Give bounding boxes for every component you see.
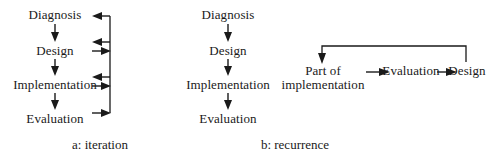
node-diagnosis-b: Diagnosis bbox=[202, 8, 255, 22]
figure-iteration-and-recurrence: Diagnosis Design Implementation Evaluati… bbox=[0, 0, 490, 166]
node-part-of-implementation-line2: implementation bbox=[282, 77, 365, 92]
panel-b-down-arrow-implementation-to-evaluation bbox=[224, 93, 232, 110]
panel-a-feedback-arrow-to-diagnosis bbox=[92, 12, 110, 20]
caption-panel-a: a: iteration bbox=[72, 137, 128, 152]
node-evaluation-recurrence: Evaluation bbox=[382, 64, 439, 78]
node-evaluation-b: Evaluation bbox=[199, 112, 256, 126]
panel-a-feedback-arrow-from-evaluation bbox=[92, 109, 111, 117]
node-implementation-a: Implementation bbox=[13, 78, 97, 92]
node-part-of-implementation-line1: Part of bbox=[305, 63, 341, 78]
node-design-b: Design bbox=[209, 44, 246, 58]
node-implementation-b: Implementation bbox=[186, 78, 270, 92]
node-design-recurrence: Design bbox=[448, 64, 485, 78]
panel-b-down-arrow-diagnosis-to-design bbox=[224, 24, 232, 42]
panel-b-recurrence-loop bbox=[318, 46, 466, 64]
node-part-of-implementation: Part of implementation bbox=[280, 64, 366, 92]
panel-b-down-arrow-design-to-implementation bbox=[224, 59, 232, 76]
panel-a-feedback-arrow-to-design bbox=[92, 38, 110, 46]
panel-a-down-arrow-implementation-to-evaluation bbox=[51, 93, 59, 110]
caption-panel-b: b: recurrence bbox=[261, 137, 329, 152]
node-diagnosis-a: Diagnosis bbox=[29, 8, 82, 22]
panel-a-down-arrow-diagnosis-to-design bbox=[51, 24, 59, 42]
panel-a-feedback-arrow-from-design bbox=[92, 47, 111, 55]
panel-a-down-arrow-design-to-implementation bbox=[51, 59, 59, 76]
node-evaluation-a: Evaluation bbox=[26, 112, 83, 126]
node-design-a: Design bbox=[36, 44, 73, 58]
